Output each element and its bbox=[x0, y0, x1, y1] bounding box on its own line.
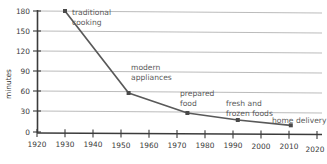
annotation-home-delivery-line1: home delivery bbox=[272, 116, 327, 125]
annotation-traditional-cooking-line2: cooking bbox=[72, 18, 102, 27]
gridline-30 bbox=[37, 111, 322, 113]
x-tick-label-1920: 1920 bbox=[28, 140, 47, 149]
data-point-1952 bbox=[127, 91, 131, 95]
annotation-fresh-frozen-foods-line1: fresh and bbox=[226, 99, 262, 108]
annotation-prepared-food-line2: food bbox=[180, 99, 197, 108]
x-tick-label-1940: 1940 bbox=[84, 140, 103, 149]
y-tick-label-0: 0 bbox=[25, 128, 30, 137]
x-tick-label-1980: 1980 bbox=[196, 141, 215, 150]
line-chart: 180 150 120 90 60 30 0 minutes 1920 1930… bbox=[0, 0, 327, 164]
annotation-fresh-frozen-foods-line2: frozen foods bbox=[226, 109, 273, 118]
y-tick-label-30: 30 bbox=[21, 107, 31, 116]
y-tick-label-150: 150 bbox=[16, 27, 30, 36]
x-tick-label-2000: 2000 bbox=[252, 142, 271, 151]
y-axis-title: minutes bbox=[4, 69, 13, 99]
annotation-prepared-food-line1: prepared bbox=[180, 89, 215, 98]
x-tick-label-1990: 1990 bbox=[224, 141, 243, 150]
x-tick-label-1970: 1970 bbox=[168, 141, 187, 150]
data-point-1991 bbox=[236, 118, 240, 122]
x-tick-label-2020: 2020 bbox=[306, 145, 325, 154]
annotation-modern-appliances-line1: modern bbox=[131, 63, 161, 72]
x-tick-label-1960: 1960 bbox=[140, 141, 159, 150]
annotation-modern-appliances-line2: appliances bbox=[131, 73, 172, 82]
x-tick-label-2010: 2010 bbox=[280, 142, 299, 151]
y-tick-label-120: 120 bbox=[16, 47, 30, 56]
y-tick-label-180: 180 bbox=[16, 7, 30, 16]
gridline-120 bbox=[37, 51, 322, 53]
x-tick-label-1930: 1930 bbox=[56, 140, 75, 149]
x-tick-label-1950: 1950 bbox=[112, 141, 131, 150]
chart-canvas: 180 150 120 90 60 30 0 minutes 1920 1930… bbox=[0, 0, 327, 164]
annotation-traditional-cooking-line1: traditional bbox=[72, 8, 111, 17]
data-point-1930 bbox=[63, 9, 67, 13]
y-tick-label-60: 60 bbox=[21, 87, 31, 96]
data-point-1973 bbox=[185, 111, 189, 115]
x-axis-line bbox=[37, 133, 322, 135]
y-tick-label-90: 90 bbox=[21, 67, 31, 76]
gridline-90 bbox=[37, 71, 322, 73]
